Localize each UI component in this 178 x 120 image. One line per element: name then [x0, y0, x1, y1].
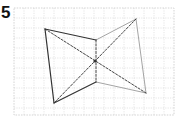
edge-fd	[54, 82, 96, 103]
figure-points	[93, 59, 96, 62]
edge-af	[45, 29, 54, 103]
edge-bc	[96, 19, 136, 40]
edge-de	[96, 82, 146, 93]
geometry-figure	[0, 0, 178, 120]
edge-ce	[136, 19, 146, 93]
edge-ab	[45, 29, 96, 40]
point-o	[93, 59, 96, 62]
